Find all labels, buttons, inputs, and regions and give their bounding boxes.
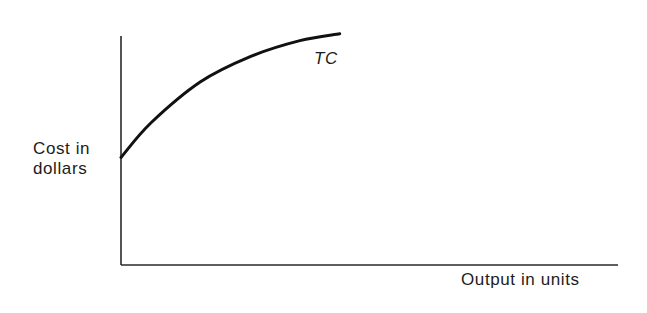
y-axis-label: Cost in dollars [33, 139, 113, 179]
tc-series-label: TC [314, 49, 338, 69]
y-axis-label-line2: dollars [33, 159, 113, 179]
x-axis-label: Output in units [461, 270, 580, 290]
y-axis-label-line1: Cost in [33, 139, 113, 159]
total-cost-curve [121, 34, 340, 158]
